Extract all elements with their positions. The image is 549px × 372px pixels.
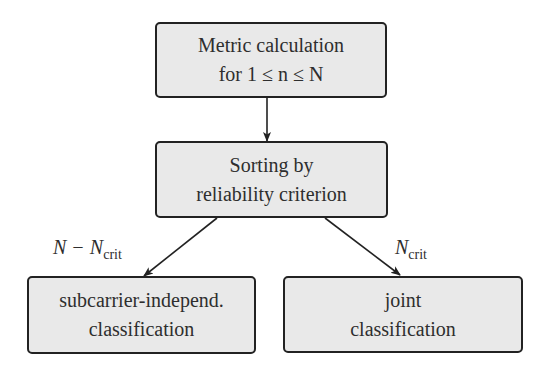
- edge-label-n-minus-ncrit: N − Ncrit: [53, 236, 122, 259]
- node-joint-classification: joint classification: [283, 276, 523, 353]
- node-joint-line-1: joint: [385, 286, 422, 315]
- node-independent-line-1: subcarrier-independ.: [59, 286, 224, 315]
- edge-label-sub: crit: [408, 247, 427, 262]
- node-independent-line-2: classification: [89, 315, 195, 344]
- arrow-sorting-to-independent: [144, 218, 217, 276]
- node-metric-line-2: for 1 ≤ n ≤ N: [219, 60, 324, 89]
- node-sorting-line-2: reliability criterion: [196, 180, 347, 209]
- node-sorting-line-1: Sorting by: [230, 151, 314, 180]
- node-metric-line-1: Metric calculation: [198, 31, 344, 60]
- node-joint-line-2: classification: [350, 315, 456, 344]
- node-sorting: Sorting by reliability criterion: [155, 141, 388, 218]
- node-metric-calculation: Metric calculation for 1 ≤ n ≤ N: [155, 22, 387, 98]
- edge-label-main: N − N: [53, 236, 103, 258]
- node-subcarrier-independent: subcarrier-independ. classification: [27, 276, 256, 354]
- arrow-sorting-to-joint: [325, 218, 400, 275]
- edge-label-main: N: [395, 236, 408, 258]
- edge-label-sub: crit: [103, 247, 122, 262]
- edge-label-ncrit: Ncrit: [395, 236, 427, 259]
